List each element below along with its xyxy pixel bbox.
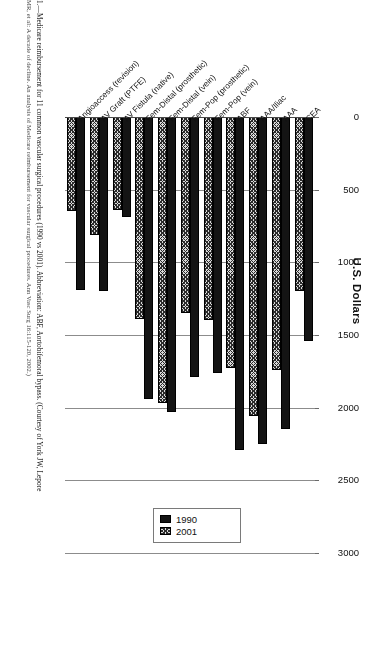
caption-line-1: 1.—Medicare reimbursement for 11 common …	[34, 0, 44, 649]
bar-2001	[272, 117, 281, 370]
bar-1990	[281, 117, 290, 429]
category-cell: CEA	[292, 21, 315, 117]
bar-2001	[204, 117, 213, 320]
legend-swatch-2001	[160, 527, 171, 535]
bar-2001	[113, 117, 122, 210]
gridline	[65, 553, 315, 554]
bar-1990	[76, 117, 85, 290]
legend-item-1990: 1990	[160, 513, 234, 525]
y-tick-label: 1000	[321, 257, 359, 268]
bar-group	[224, 117, 247, 553]
bar-1990	[258, 117, 267, 444]
bar-group	[179, 117, 202, 553]
caption-line-2: MR, et al: A decade of decline. An analy…	[23, 0, 33, 649]
bar-chart: U.S. Dollars 050010001500200025003000 CE…	[61, 21, 361, 561]
bar-1990	[167, 117, 176, 412]
figure-caption: 1.—Medicare reimbursement for 11 common …	[0, 0, 44, 649]
bar-1990	[304, 117, 313, 341]
legend-label-1990: 1990	[176, 514, 197, 525]
legend-swatch-1990	[160, 515, 171, 523]
figure-page: U.S. Dollars 050010001500200025003000 CE…	[0, 0, 379, 649]
y-tick-label: 3000	[321, 548, 359, 559]
bar-2001	[226, 117, 235, 368]
bar-group	[201, 117, 224, 553]
bar-2001	[249, 117, 258, 416]
bar-group	[65, 117, 88, 553]
bar-1990	[99, 117, 108, 291]
y-tick-mark	[315, 262, 319, 263]
bar-group	[88, 117, 111, 553]
y-tick-label: 2000	[321, 402, 359, 413]
y-tick-mark	[315, 190, 319, 191]
y-tick-label: 2500	[321, 475, 359, 486]
bar-2001	[181, 117, 190, 313]
y-tick-mark	[315, 408, 319, 409]
bar-1990	[145, 117, 154, 399]
bar-2001	[136, 117, 145, 319]
bar-1990	[122, 117, 131, 217]
bar-2001	[90, 117, 99, 235]
legend-item-2001: 2001	[160, 525, 234, 537]
bar-2001	[158, 117, 167, 403]
bar-1990	[213, 117, 222, 373]
rotated-figure-body: U.S. Dollars 050010001500200025003000 CE…	[0, 0, 379, 649]
y-tick-label: 0	[321, 112, 359, 123]
bar-2001	[67, 117, 76, 211]
legend-label-2001: 2001	[176, 526, 197, 537]
bar-group	[156, 117, 179, 553]
y-tick-mark	[315, 335, 319, 336]
bar-group	[292, 117, 315, 553]
y-tick-mark	[315, 480, 319, 481]
figure-caption-block: 1.—Medicare reimbursement for 11 common …	[0, 0, 44, 649]
y-tick-label: 1500	[321, 330, 359, 341]
bar-group	[110, 117, 133, 553]
bar-group	[247, 117, 270, 553]
y-tick-mark	[315, 553, 319, 554]
bar-group	[270, 117, 293, 553]
bar-group	[133, 117, 156, 553]
category-cell: Angioaccess (revision)	[65, 21, 88, 117]
bar-1990	[235, 117, 244, 450]
plot-area: 050010001500200025003000	[65, 117, 315, 553]
y-tick-label: 500	[321, 184, 359, 195]
bar-2001	[295, 117, 304, 291]
bar-1990	[190, 117, 199, 377]
bar-groups	[65, 117, 315, 553]
category-axis-labels: CEAAAAAAA/IliacABFFem-Pop (vein)Fem-Pop …	[65, 21, 315, 117]
chart-legend: 1990 2001	[153, 508, 241, 543]
